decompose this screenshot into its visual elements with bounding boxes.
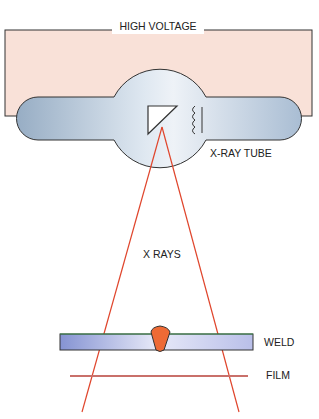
high-voltage-label: HIGH VOLTAGE	[119, 20, 196, 32]
xray-beam	[82, 127, 239, 412]
xray-radiography-diagram: HIGH VOLTAGE X-RAY TUBE X RAYS WELD FILM	[0, 0, 319, 419]
x-rays-label: X RAYS	[143, 248, 181, 260]
ray-right	[162, 127, 239, 412]
xray-tube-label: X-RAY TUBE	[210, 147, 272, 159]
weld-specimen: WELD	[60, 326, 295, 352]
film: FILM	[70, 369, 290, 381]
film-label: FILM	[266, 369, 290, 381]
weld-label: WELD	[264, 336, 295, 348]
ray-left	[82, 127, 162, 412]
